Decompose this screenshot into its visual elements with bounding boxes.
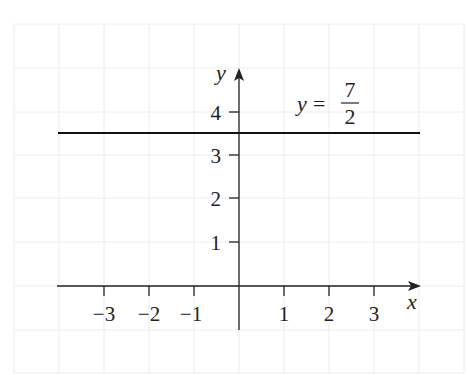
y-axis-label: y: [214, 60, 226, 85]
y-axis: [229, 76, 239, 330]
equation-numerator: 7: [345, 77, 356, 102]
equation-denominator: 2: [345, 104, 356, 129]
x-tick-label: 1: [279, 302, 290, 326]
x-tick-label: −1: [180, 302, 202, 326]
y-tick-label: 1: [211, 231, 222, 255]
x-tick-label: 3: [369, 302, 380, 326]
y-tick-label: 3: [211, 144, 222, 168]
equation-lhs: y: [295, 91, 307, 116]
x-tick-label: −2: [138, 302, 160, 326]
x-axis-label: x: [406, 289, 417, 314]
chart-canvas: −3 −2 −1 1 2 3 4 3 2 1 y x y = 7 2: [0, 0, 467, 375]
x-tick-label: −3: [93, 302, 115, 326]
x-axis: [57, 286, 412, 296]
y-tick-label: 4: [211, 101, 222, 125]
equation-equals: =: [313, 91, 325, 116]
x-tick-label: 2: [324, 302, 335, 326]
y-tick-label: 2: [211, 187, 222, 211]
equation-annotation: y = 7 2: [295, 77, 359, 129]
